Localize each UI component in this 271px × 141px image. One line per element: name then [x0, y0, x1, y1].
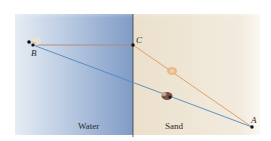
point-a-label: A [250, 115, 257, 125]
point-b-marker-left [27, 40, 31, 44]
sand-region [133, 14, 260, 135]
lifeguard-direct-path-icon [162, 92, 173, 100]
sand-label: Sand [165, 121, 184, 131]
water-sand-diagram: B C A Water Sand [0, 0, 271, 141]
lifeguard-sand-path-icon [167, 67, 177, 75]
point-c-label: C [136, 35, 143, 45]
water-region [15, 14, 133, 135]
point-a-marker [250, 125, 253, 128]
point-c-marker [131, 43, 134, 46]
point-b-label: B [31, 48, 37, 58]
water-label: Water [78, 121, 99, 131]
point-b-marker [31, 43, 34, 46]
